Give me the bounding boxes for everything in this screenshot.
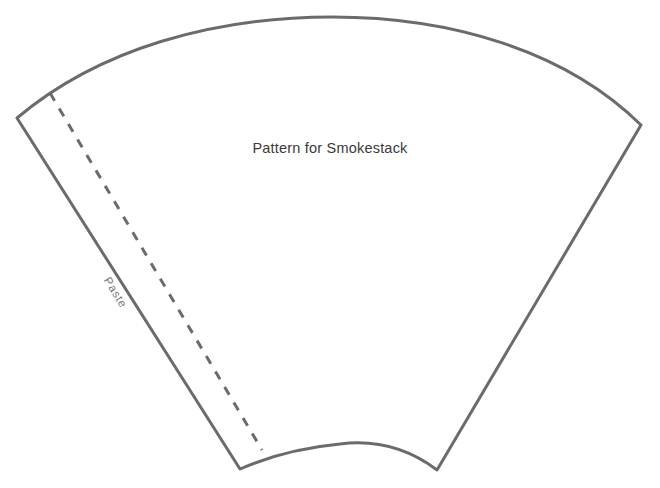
page-title: Pattern for Smokestack [0,140,660,156]
smokestack-pattern-drawing [0,0,660,488]
pattern-canvas: Pattern for Smokestack Paste [0,0,660,488]
pattern-outline-cut-line [17,17,641,470]
